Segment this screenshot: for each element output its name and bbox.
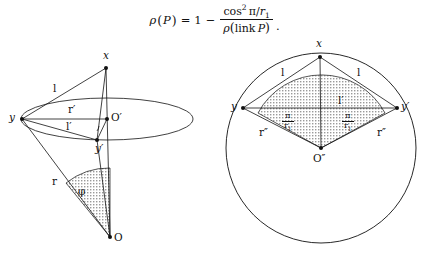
label-point-Odprime: O″ [313,153,326,164]
right-figure: x y y′ O″ l l l′ r″ r″ π r1 π r1 [0,0,429,255]
label-point-y-right: y [231,101,237,112]
label-segment-l-right-left: l [281,67,284,78]
label-segment-r-dprime-right: r″ [377,127,386,138]
point-x-dot-right [318,55,322,59]
angle-right-numerator: π [343,112,352,121]
label-angle-pi-over-r1-right: π r1 [342,112,354,132]
angle-right-denominator: r1 [342,121,354,132]
angle-right-denominator-sub: 1 [348,125,352,132]
point-Odprime-dot [319,146,323,150]
label-point-x-right: x [316,38,322,49]
point-y-dot-right [241,106,245,110]
label-segment-l-prime-right: l′ [338,95,344,106]
angle-left-denominator: r1 [282,121,294,132]
point-yprime-dot-right [395,106,399,110]
angle-left-numerator: π [283,112,292,121]
label-segment-r-dprime-left: r″ [259,127,268,138]
right-figure-svg [0,0,429,255]
angle-left-denominator-sub: 1 [288,125,292,132]
figure-page: ρ(P) = 1 − cos2 π/r1 ρ(link P) . [0,0,429,255]
label-angle-pi-over-r1-left: π r1 [282,112,294,132]
label-segment-l-right-right: l [357,67,360,78]
label-point-yprime-right: y′ [401,101,409,112]
